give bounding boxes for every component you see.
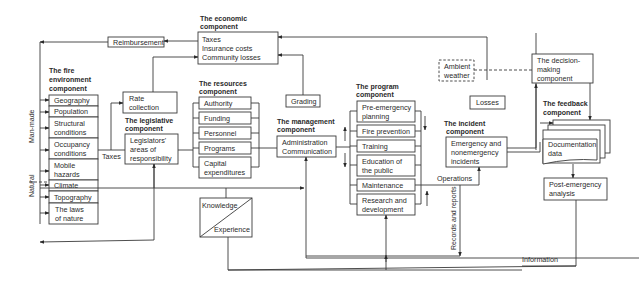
- feedback-title-2: component: [543, 109, 581, 117]
- fire-env-occupancy-label-2: conditions: [54, 149, 87, 158]
- program-education-label-1: Education of: [362, 157, 402, 166]
- incident-label-2: nonemergency: [451, 148, 499, 157]
- economic-component: The economic component Taxes Insurance c…: [198, 15, 278, 64]
- economic-title-1: The economic: [200, 15, 247, 22]
- post-emergency-label-1: Post-emergency: [549, 180, 602, 189]
- feedback-stack: Documentation data: [543, 120, 610, 164]
- decision-making-label-1: The decision-: [537, 56, 581, 65]
- incident-to-feedback-line-2: [507, 142, 540, 152]
- fire-env-population-label: Population: [54, 107, 88, 116]
- bottom-to-management-arrow: [306, 157, 639, 258]
- grading-to-economic-arrow: [278, 55, 303, 95]
- ambient-weather-label-1: Ambient: [444, 62, 470, 71]
- resources-left-bracket: [193, 103, 199, 167]
- rate-collection-label-2: collection: [129, 103, 159, 112]
- natural-label: Natural: [28, 174, 35, 197]
- management-label-2: Communication: [282, 147, 332, 156]
- resource-personnel-label: Personnel: [204, 129, 237, 138]
- program-left-bracket: [350, 111, 357, 204]
- economic-title-2: component: [200, 23, 238, 31]
- decision-making-label-2: making: [537, 65, 560, 74]
- resources-title-1: The resources: [199, 80, 247, 87]
- economic-item-insurance: Insurance costs: [202, 44, 253, 53]
- legislative-label-2: areas of: [130, 145, 156, 154]
- incident-title-1: The incident: [444, 120, 486, 127]
- legislative-title-1: The legislative: [125, 117, 173, 125]
- program-title-1: The program: [356, 83, 399, 91]
- taxes-to-rate-arrow: [111, 103, 123, 150]
- fire-protection-systems-diagram: The economic component Taxes Insurance c…: [0, 0, 639, 282]
- resources-right-bracket: [251, 103, 259, 167]
- fire-env-occupancy-label-1: Occupancy: [54, 140, 90, 149]
- operations-label: Operations: [437, 174, 473, 183]
- documentation-label-2: data: [548, 149, 562, 158]
- information-line: [228, 266, 576, 270]
- resources-title-2: component: [199, 88, 237, 96]
- program-education-label-2: the public: [362, 166, 393, 175]
- taxes-label: Taxes: [102, 152, 121, 161]
- experience-to-information: [228, 237, 522, 270]
- fire-env-structural-label-1: Structural: [54, 119, 85, 128]
- fire-env-title-1: The fire: [49, 67, 74, 74]
- fire-env-laws-label-2: of nature: [55, 214, 83, 223]
- documentation-label-1: Documentation: [548, 140, 596, 149]
- resource-capital-label-1: Capital: [204, 159, 227, 168]
- fire-env-geography-label: Geography: [54, 96, 90, 105]
- resources-component: Authority Funding Personnel Programs Cap…: [193, 97, 277, 178]
- management-title-2: component: [277, 126, 315, 134]
- program-fire-prevention-label: Fire prevention: [362, 127, 410, 136]
- incident-to-feedback-line-1: [507, 33, 536, 148]
- reimbursement-label: Reimbursement: [113, 38, 164, 47]
- economic-item-taxes: Taxes: [202, 35, 221, 44]
- losses-label: Losses: [476, 98, 499, 107]
- program-title-2: component: [356, 91, 394, 99]
- program-pre-emergency-label-2: planning: [362, 112, 389, 121]
- man-made-label: Man-made: [28, 109, 35, 143]
- experience-label: Experience: [214, 225, 250, 234]
- resource-capital-label-2: expenditures: [204, 168, 246, 177]
- resource-programs-label: Programs: [204, 144, 236, 153]
- economic-item-community-losses: Community losses: [202, 53, 261, 62]
- fire-env-mobile-label-1: Mobile: [54, 161, 75, 170]
- fire-env-climate-label: Climate: [54, 181, 78, 190]
- resource-authority-label: Authority: [204, 99, 233, 108]
- resource-funding-label: Funding: [204, 114, 230, 123]
- fire-env-title-2: environment: [49, 76, 92, 83]
- program-pre-emergency-label-1: Pre-emergency: [362, 103, 412, 112]
- program-right-bracket: [415, 111, 421, 204]
- rate-collection-label-1: Rate: [129, 94, 144, 103]
- program-training-label: Training: [362, 142, 388, 151]
- incident-label-3: incidents: [451, 157, 480, 166]
- knowledge-label: Knowledge: [202, 201, 238, 210]
- management-label-1: Administration: [282, 138, 328, 147]
- fire-env-structural-label-2: conditions: [54, 128, 87, 137]
- fire-env-mobile-label-2: hazards: [54, 170, 80, 179]
- incident-label-1: Emergency and: [451, 139, 501, 148]
- post-emergency-label-2: analysis: [549, 189, 575, 198]
- incident-title-2: component: [446, 128, 484, 136]
- records-and-reports-label: Records and reports: [450, 186, 458, 250]
- program-research-label-2: development: [362, 205, 403, 214]
- information-label: Information: [522, 255, 558, 264]
- program-research-label-1: Research and: [362, 196, 407, 205]
- fire-env-title-3: component: [49, 85, 87, 93]
- program-maintenance-label: Maintenance: [362, 181, 403, 190]
- legislative-title-2: component: [125, 125, 163, 133]
- legislative-label-3: responsibility: [130, 154, 172, 163]
- decision-making-label-3: component: [537, 74, 573, 83]
- feedback-title-1: The feedback: [543, 100, 588, 107]
- rate-to-economic-arrow: [153, 57, 198, 92]
- legislative-label-1: Legislators': [130, 136, 167, 145]
- fire-env-topography-label: Topography: [54, 193, 92, 202]
- ambient-weather-label-2: weather: [443, 71, 470, 80]
- fire-env-laws-label-1: The laws: [55, 205, 84, 214]
- management-title-1: The management: [277, 118, 335, 126]
- grading-label: Grading: [291, 97, 317, 106]
